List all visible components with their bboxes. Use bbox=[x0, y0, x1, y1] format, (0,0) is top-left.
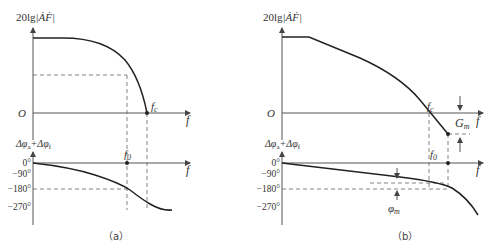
panel-b-gm-point bbox=[446, 132, 450, 136]
panel-b-magnitude-curve bbox=[282, 37, 448, 134]
panel-a-caption: （a） bbox=[103, 231, 129, 242]
panel-a-origin-label: O bbox=[18, 107, 26, 119]
panel-a-phase-curve bbox=[33, 163, 172, 210]
panel-b-tick-270: −270° bbox=[257, 202, 281, 212]
panel-a-phase-x-label: f bbox=[186, 163, 191, 177]
panel-b-tick-0: 0° bbox=[271, 158, 280, 168]
panel-a-phase-plot: Δφa+Δφf f 0° −90° −180° −270° f0 bbox=[8, 138, 191, 225]
panel-b-mag-ylabel: 20lg|ȦḞ| bbox=[263, 11, 302, 23]
panel-b-phase-x-label: f bbox=[476, 163, 481, 177]
panel-b-phase-ylabel: Δφa+Δφf bbox=[264, 138, 301, 151]
panel-b-pm-label: φm bbox=[388, 202, 400, 216]
panel-a-fc-label: fc bbox=[151, 100, 158, 114]
panel-a-fc-point bbox=[145, 111, 149, 115]
panel-b-f0-label: f0 bbox=[430, 148, 437, 162]
panel-b-caption: （b） bbox=[392, 231, 418, 242]
panel-a-magnitude-curve bbox=[33, 38, 147, 113]
panel-a-magnitude-plot: 20lg|ȦḞ| O f fc bbox=[16, 11, 191, 210]
panel-b-gm-label: Gm bbox=[455, 116, 470, 131]
panel-a-f0-label: f0 bbox=[124, 148, 131, 162]
panel-b-tick-90: −90° bbox=[261, 169, 280, 179]
panel-a-tick-180: −180° bbox=[8, 184, 32, 194]
panel-a-mag-ylabel: 20lg|ȦḞ| bbox=[16, 11, 55, 23]
panel-a-phase-ylabel: Δφa+Δφf bbox=[15, 138, 52, 151]
panel-a-tick-90: −90° bbox=[12, 169, 31, 179]
panel-a-tick-0: 0° bbox=[22, 158, 31, 168]
panel-a: 20lg|ȦḞ| O f fc Δφa+Δφf f 0° −90° bbox=[8, 11, 191, 242]
panel-b: 20lg|ȦḞ| O f fc Gm Δφa+Δφf bbox=[257, 11, 483, 242]
panel-b-origin-label: O bbox=[267, 107, 275, 119]
panel-b-phase-plot: Δφa+Δφf f 0° −90° −180° −270° f0 φm bbox=[257, 138, 483, 225]
panel-b-tick-180: −180° bbox=[257, 184, 281, 194]
panel-b-f0-point bbox=[446, 161, 450, 165]
panel-a-tick-270: −270° bbox=[8, 202, 32, 212]
bode-stability-diagram: 20lg|ȦḞ| O f fc Δφa+Δφf f 0° −90° bbox=[0, 0, 485, 245]
panel-b-mag-x-label: f bbox=[476, 114, 481, 128]
panel-a-mag-x-label: f bbox=[186, 113, 191, 127]
panel-b-fc-label: fc bbox=[427, 100, 434, 114]
